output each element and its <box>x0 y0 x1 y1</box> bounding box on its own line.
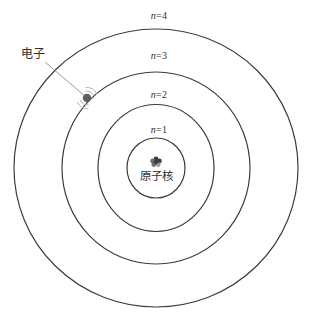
electron-leader-line <box>45 62 86 97</box>
electron-icon <box>83 94 91 102</box>
orbit-label-n4: n=4 <box>151 11 168 21</box>
nucleus-label: 原子核 <box>140 171 173 183</box>
atom-orbital-diagram: n=4 n=3 n=2 n=1 电子 原子核 <box>0 0 310 319</box>
orbit-value: =1 <box>156 124 167 135</box>
orbit-value: =4 <box>156 10 167 21</box>
orbit-circle-n3 <box>62 72 250 264</box>
orbit-label-n1: n=1 <box>151 125 168 135</box>
orbit-circle-n4 <box>14 29 298 307</box>
orbit-circle-n1 <box>127 138 185 198</box>
orbit-label-n2: n=2 <box>151 90 168 100</box>
nucleus-icon <box>150 156 162 167</box>
diagram-canvas <box>0 0 310 319</box>
electron-label: 电子 <box>21 48 45 60</box>
orbit-value: =2 <box>156 89 167 100</box>
orbit-value: =3 <box>156 50 167 61</box>
orbit-label-n3: n=3 <box>151 51 168 61</box>
